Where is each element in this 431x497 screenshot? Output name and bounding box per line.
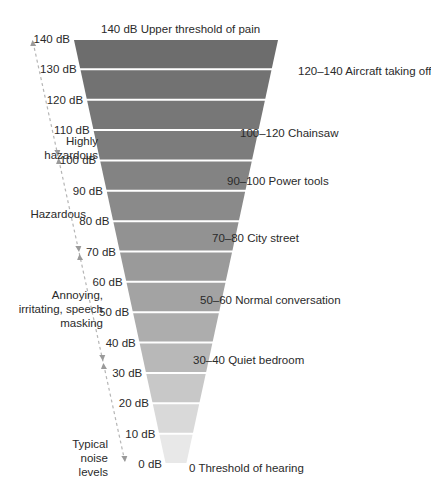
funnel-band-70 [120, 253, 232, 281]
db-label-20: 20 dB [89, 397, 149, 410]
db-label-140: 140 dB [10, 33, 70, 46]
example-label: 30–40 Quiet bedroom [193, 354, 304, 367]
category-label: Highlyhazardous [0, 134, 98, 162]
db-label-70: 70 dB [56, 246, 116, 259]
funnel-band-130 [81, 70, 272, 98]
example-label: 100–120 Chainsaw [240, 127, 338, 140]
db-label-120: 120 dB [23, 94, 83, 107]
funnel-band-90 [107, 192, 245, 220]
category-label: Hazardous [0, 207, 86, 221]
db-label-60: 60 dB [63, 276, 123, 289]
example-label: 70–80 City street [212, 232, 299, 245]
db-label-90: 90 dB [43, 185, 103, 198]
funnel-band-30 [146, 374, 205, 402]
db-label-30: 30 dB [82, 367, 142, 380]
db-label-0: 0 dB [102, 458, 162, 471]
funnel-band-50 [133, 313, 219, 341]
funnel-band-20 [153, 404, 199, 432]
example-label: 90–100 Power tools [227, 175, 329, 188]
funnel-band-140 [74, 40, 278, 68]
title-upper-threshold: 140 dB Upper threshold of pain [101, 23, 260, 36]
example-label: 120–140 Aircraft taking off [298, 65, 431, 78]
category-label: Annoying,irritating, speechmasking [0, 288, 103, 330]
db-label-130: 130 dB [17, 63, 77, 76]
funnel-band-10 [159, 435, 192, 463]
funnel-band-110 [94, 131, 259, 159]
example-label: 50–60 Normal conversation [200, 294, 341, 307]
funnel-band-120 [87, 101, 265, 129]
db-label-40: 40 dB [76, 337, 136, 350]
category-label: Typicalnoiselevels [0, 437, 108, 479]
label-threshold-of-hearing: 0 Threshold of hearing [189, 462, 304, 475]
